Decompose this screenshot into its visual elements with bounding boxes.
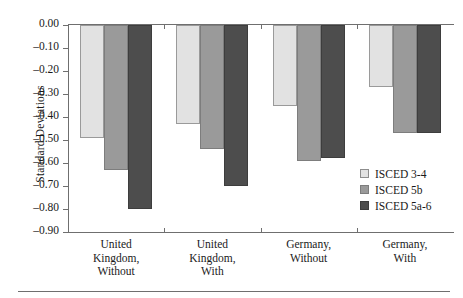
category-label-line: Kingdom, xyxy=(68,252,164,266)
group-separator-tick xyxy=(357,228,358,233)
legend-item: ISCED 3-4 xyxy=(360,166,432,181)
y-axis-tick-mark xyxy=(63,186,68,187)
x-axis-category-label: Germany,With xyxy=(357,238,453,265)
y-axis-tick-mark xyxy=(63,94,68,95)
bar xyxy=(297,25,321,161)
y-axis-tick-mark xyxy=(63,117,68,118)
bar-chart: Standard Deviations 0.00–0.10–0.20–0.30–… xyxy=(0,0,463,298)
group-separator-tick xyxy=(357,24,358,29)
footer-rule xyxy=(18,291,450,292)
category-label-line: Without xyxy=(68,265,164,279)
y-axis-tick-mark xyxy=(63,140,68,141)
legend-swatch xyxy=(360,169,369,178)
x-axis-category-label: UnitedKingdom,With xyxy=(164,238,260,279)
bar xyxy=(393,25,417,133)
y-axis-tick-label: –0.40 xyxy=(33,109,59,121)
category-label-line: With xyxy=(357,252,453,266)
group-separator-tick xyxy=(164,24,165,29)
legend-label: ISCED 3-4 xyxy=(375,168,426,180)
y-axis-tick-label: 0.00 xyxy=(39,17,59,29)
bar xyxy=(200,25,224,149)
legend-swatch xyxy=(360,185,369,194)
y-axis-tick-mark xyxy=(63,48,68,49)
legend-swatch xyxy=(360,201,369,210)
bar xyxy=(224,25,248,186)
legend-item: ISCED 5a-6 xyxy=(360,198,432,213)
y-axis-tick-mark xyxy=(63,163,68,164)
y-axis-tick-mark xyxy=(63,71,68,72)
category-label-line: United xyxy=(68,238,164,252)
group-separator-tick xyxy=(164,228,165,233)
bar xyxy=(176,25,200,124)
y-axis-tick-label: –0.10 xyxy=(33,40,59,52)
x-axis-category-label: UnitedKingdom,Without xyxy=(68,238,164,279)
legend-label: ISCED 5b xyxy=(375,184,423,196)
y-axis-line xyxy=(68,24,69,233)
bar xyxy=(321,25,345,158)
y-axis-tick-mark xyxy=(63,209,68,210)
bar xyxy=(273,25,297,106)
bar xyxy=(104,25,128,170)
category-label-line: Kingdom, xyxy=(164,252,260,266)
category-label-line: Germany, xyxy=(357,238,453,252)
category-label-line: Germany, xyxy=(261,238,357,252)
bar xyxy=(417,25,441,133)
group-separator-tick xyxy=(261,228,262,233)
y-axis-tick-label: –0.50 xyxy=(33,132,59,144)
bar xyxy=(128,25,152,209)
bar xyxy=(80,25,104,138)
y-axis-tick-mark xyxy=(63,25,68,26)
y-axis-tick-label: –0.30 xyxy=(33,86,59,98)
category-label-line: Without xyxy=(261,252,357,266)
group-separator-tick xyxy=(261,24,262,29)
y-axis-tick-label: –0.60 xyxy=(33,155,59,167)
legend-item: ISCED 5b xyxy=(360,182,432,197)
category-label-line: With xyxy=(164,265,260,279)
y-axis-tick-label: –0.80 xyxy=(33,201,59,213)
y-axis-tick-label: –0.70 xyxy=(33,178,59,190)
category-label-line: United xyxy=(164,238,260,252)
x-axis-category-label: Germany,Without xyxy=(261,238,357,265)
y-axis-tick-label: –0.90 xyxy=(33,224,59,236)
bar xyxy=(369,25,393,87)
legend-label: ISCED 5a-6 xyxy=(375,200,432,212)
legend: ISCED 3-4ISCED 5bISCED 5a-6 xyxy=(360,166,432,214)
y-axis-tick-mark xyxy=(63,232,68,233)
y-axis-tick-label: –0.20 xyxy=(33,63,59,75)
